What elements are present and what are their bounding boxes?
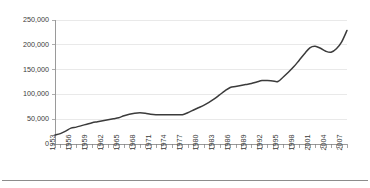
x-axis-label-1965: 1965 [112, 135, 121, 151]
x-axis-label-2007: 2007 [335, 135, 344, 151]
x-axis-label-2001: 2001 [303, 135, 312, 151]
x-axis-label-1974: 1974 [159, 135, 168, 151]
line-chart-figure: 050,000100,000150,000200,000250,000 1953… [0, 0, 370, 188]
x-axis-label-1998: 1998 [287, 135, 296, 151]
y-axis-label-100000: 100,000 [23, 89, 49, 98]
gridlines [55, 21, 347, 145]
y-axis-label-200000: 200,000 [23, 40, 49, 49]
x-axis-label-1986: 1986 [223, 135, 232, 151]
y-axis [52, 20, 56, 145]
x-axis-label-1971: 1971 [144, 135, 153, 151]
y-axis-label-250000: 250,000 [23, 15, 49, 24]
y-axis-label-50000: 50,000 [27, 114, 49, 123]
x-axis-label-1983: 1983 [207, 135, 216, 151]
x-axis-label-1992: 1992 [255, 135, 264, 151]
x-axis-label-1959: 1959 [80, 135, 89, 151]
x-axis-label-1989: 1989 [239, 135, 248, 151]
x-axis-label-1977: 1977 [175, 135, 184, 151]
x-axis-tick-labels: 1953195619591962196519681971197419771980… [48, 135, 344, 151]
x-axis-label-1956: 1956 [64, 135, 73, 151]
x-axis-label-2004: 2004 [319, 135, 328, 151]
y-axis-tick-labels: 050,000100,000150,000200,000250,000 [23, 15, 49, 148]
x-axis-label-1995: 1995 [271, 135, 280, 151]
x-axis-label-1968: 1968 [128, 135, 137, 151]
y-axis-label-150000: 150,000 [23, 65, 49, 74]
x-axis-label-1962: 1962 [96, 135, 105, 151]
x-axis-label-1980: 1980 [191, 135, 200, 151]
chart-canvas: 050,000100,000150,000200,000250,000 1953… [0, 0, 370, 188]
x-axis-label-1953: 1953 [48, 135, 57, 151]
